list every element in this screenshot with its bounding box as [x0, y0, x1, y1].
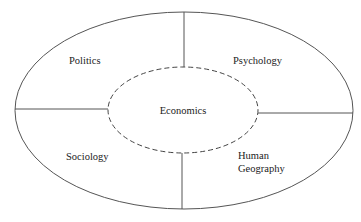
label-sociology: Sociology: [66, 151, 109, 162]
label-human-geography-line2: Geography: [238, 163, 285, 174]
social-sciences-diagram: Economics Politics Psychology Sociology …: [0, 0, 361, 222]
label-human-geography-line1: Human: [238, 150, 270, 161]
label-politics: Politics: [69, 55, 101, 66]
label-economics: Economics: [160, 105, 207, 116]
label-psychology: Psychology: [233, 55, 283, 66]
